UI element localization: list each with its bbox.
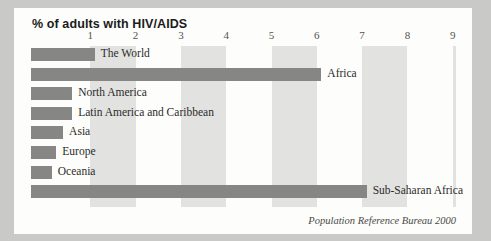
bar <box>31 126 63 139</box>
bar <box>31 185 367 198</box>
bar-label: Oceania <box>58 165 96 177</box>
bar-label: North America <box>78 86 147 98</box>
x-tick-1: 1 <box>88 29 94 41</box>
bar-row: Oceania <box>31 164 456 181</box>
x-tick-4: 4 <box>223 29 229 41</box>
page-background: % of adults with HIV/AIDS 123456789 The … <box>0 0 491 241</box>
x-tick-5: 5 <box>269 29 275 41</box>
bar <box>31 166 52 179</box>
bar <box>31 48 95 61</box>
x-tick-6: 6 <box>314 29 320 41</box>
bar-row: Asia <box>31 124 456 141</box>
x-tick-8: 8 <box>405 29 411 41</box>
bar <box>31 107 72 120</box>
bar-label: Asia <box>69 125 90 137</box>
bar-label: The World <box>101 47 150 59</box>
bar-row: Sub-Saharan Africa <box>31 183 456 200</box>
bar-rows: The WorldAfricaNorth AmericaLatin Americ… <box>31 46 456 207</box>
bar-row: Europe <box>31 144 456 161</box>
bar-label: Latin America and Caribbean <box>78 106 214 118</box>
figure-card: % of adults with HIV/AIDS 123456789 The … <box>14 8 472 234</box>
bar-label: Sub-Saharan Africa <box>373 184 463 196</box>
source-note: Population Reference Bureau 2000 <box>308 215 456 226</box>
bar <box>31 146 56 159</box>
bar-row: Africa <box>31 66 456 83</box>
bar-row: North America <box>31 85 456 102</box>
bar-row: The World <box>31 46 456 63</box>
chart-plot-area: 123456789 The WorldAfricaNorth AmericaLa… <box>31 29 456 207</box>
x-tick-3: 3 <box>178 29 184 41</box>
bar <box>31 87 72 100</box>
x-tick-2: 2 <box>133 29 139 41</box>
bar <box>31 68 321 81</box>
x-tick-9: 9 <box>450 29 456 41</box>
bar-label: Europe <box>62 145 95 157</box>
bar-label: Africa <box>327 67 356 79</box>
x-tick-7: 7 <box>359 29 365 41</box>
x-axis-tick-labels: 123456789 <box>31 29 456 46</box>
bar-row: Latin America and Caribbean <box>31 105 456 122</box>
